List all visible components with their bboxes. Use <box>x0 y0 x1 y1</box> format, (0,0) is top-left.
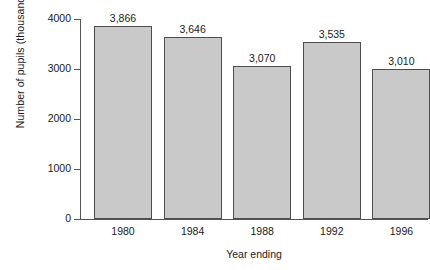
y-axis-tick-mark <box>74 119 80 120</box>
y-axis-tick-label: 1000 <box>48 162 71 174</box>
plot-area: 010002000300040003,86619803,64619843,070… <box>80 19 428 219</box>
y-axis-tick-label: 3000 <box>48 62 71 74</box>
bar: 3,5351992 <box>303 42 361 219</box>
y-axis-tick-mark <box>74 69 80 70</box>
y-axis-tick-label: 0 <box>65 212 71 224</box>
x-axis-tick-label: 1984 <box>181 225 204 237</box>
x-axis-tick-label: 1988 <box>251 225 274 237</box>
bar-chart: Number of pupils (thousands) 01000200030… <box>0 0 430 270</box>
x-axis-tick-label: 1996 <box>390 225 413 237</box>
x-axis-tick-label: 1980 <box>111 225 134 237</box>
bar: 3,0101996 <box>372 69 430 220</box>
bar-value-label: 3,070 <box>249 52 275 64</box>
y-axis-tick-mark <box>74 19 80 20</box>
bar-value-label: 3,535 <box>319 28 345 40</box>
y-axis-line <box>80 19 81 220</box>
bar-value-label: 3,646 <box>179 23 205 35</box>
y-axis-tick-label: 4000 <box>48 12 71 24</box>
bar-value-label: 3,866 <box>110 12 136 24</box>
y-axis-tick-mark <box>74 169 80 170</box>
y-axis-tick-mark <box>74 219 80 220</box>
bar-value-label: 3,010 <box>388 55 414 67</box>
bar: 3,6461984 <box>164 37 222 219</box>
x-axis-line <box>80 219 428 220</box>
bar: 3,8661980 <box>94 26 152 219</box>
bar: 3,0701988 <box>233 66 291 220</box>
x-axis-tick-label: 1992 <box>320 225 343 237</box>
x-axis-title: Year ending <box>80 248 428 260</box>
y-axis-title: Number of pupils (thousands) <box>14 0 26 163</box>
y-axis-tick-label: 2000 <box>48 112 71 124</box>
